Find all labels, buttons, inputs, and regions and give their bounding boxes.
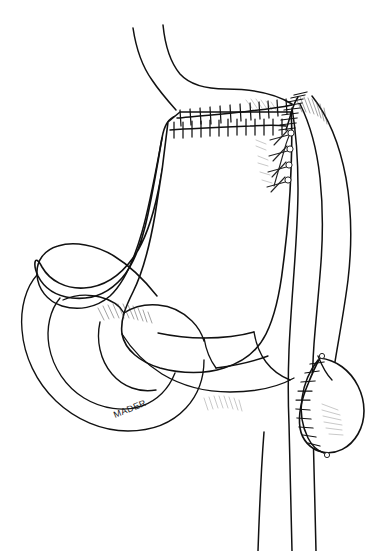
- pouch-suture-knot-top: [319, 353, 324, 358]
- pouch-suture-knot-bottom: [324, 452, 329, 457]
- illustration-canvas: MADER: [0, 0, 371, 551]
- surgical-illustration-figure: MADER Roux-en-Y esophagojejunostomy afte…: [0, 0, 371, 551]
